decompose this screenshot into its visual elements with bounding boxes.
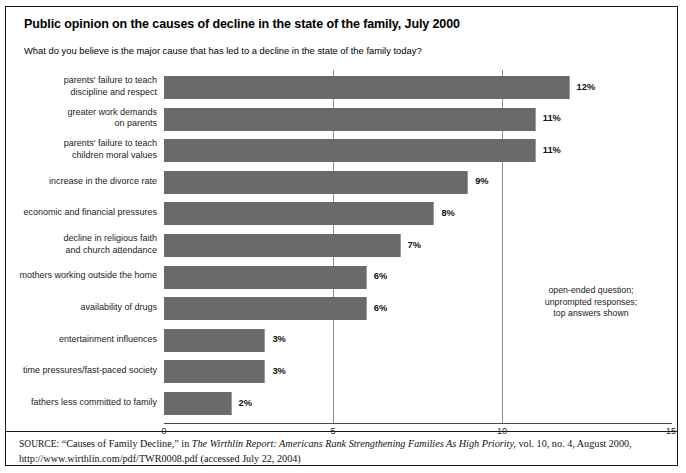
source-note: SOURCE: “Causes of Family Decline,” in T…: [19, 437, 669, 465]
category-label: increase in the divorce rate: [9, 176, 157, 188]
source-publication: The Wirthlin Report: Americans Rank Stre…: [192, 438, 516, 449]
bar[interactable]: [164, 171, 468, 194]
bar-value-label: 11%: [543, 145, 561, 155]
category-label: availability of drugs: [9, 302, 157, 314]
source-label: SOURCE:: [19, 439, 59, 449]
x-axis-tick-label: 10: [497, 426, 507, 436]
bar-value-label: 3%: [272, 366, 285, 376]
category-label: parents' failure to teach children moral…: [9, 138, 157, 161]
source-volume: vol. 10, no. 4, August 2000,: [518, 438, 631, 449]
page-title: Public opinion on the causes of decline …: [24, 17, 460, 31]
bar[interactable]: [164, 297, 367, 320]
bar-value-label: 11%: [543, 113, 561, 123]
bar-value-label: 6%: [374, 271, 387, 281]
category-label: decline in religious faith and church at…: [9, 233, 157, 256]
bar[interactable]: [164, 108, 536, 131]
source-divider: [6, 431, 677, 432]
bar-value-label: 9%: [475, 176, 488, 186]
chart-figure: Public opinion on the causes of decline …: [5, 6, 678, 466]
category-label: entertainment influences: [9, 334, 157, 346]
plot-area: 12%11%11%9%8%7%6%6%3%3%2%: [164, 70, 671, 423]
bar[interactable]: [164, 202, 434, 225]
source-url: http://www.wirthlin.com/pdf/TWR0008.pdf …: [19, 453, 301, 464]
bar-value-label: 3%: [272, 334, 285, 344]
bar[interactable]: [164, 392, 232, 415]
category-label: mothers working outside the home: [9, 270, 157, 282]
chart-question: What do you believe is the major cause t…: [24, 45, 422, 56]
bar[interactable]: [164, 234, 401, 257]
category-label: economic and financial pressures: [9, 207, 157, 219]
bar-value-label: 8%: [441, 208, 454, 218]
category-label: fathers less committed to family: [9, 397, 157, 409]
x-axis-line: [164, 423, 672, 424]
bar[interactable]: [164, 266, 367, 289]
source-quoted-title: “Causes of Family Decline,”: [62, 438, 179, 449]
bar-value-label: 7%: [408, 240, 421, 250]
category-label: time pressures/fast-paced society: [9, 365, 157, 377]
bar-value-label: 6%: [374, 303, 387, 313]
category-label: parents' failure to teach discipline and…: [9, 75, 157, 98]
chart-annotation: open-ended question; unprompted response…: [511, 285, 671, 320]
category-label: greater work demands on parents: [9, 107, 157, 130]
source-in: in: [181, 438, 189, 449]
x-axis-tick-label: 15: [666, 426, 676, 436]
x-axis-tick-label: 0: [161, 426, 166, 436]
bar[interactable]: [164, 139, 536, 162]
bar-value-label: 12%: [577, 82, 596, 92]
bar[interactable]: [164, 360, 265, 383]
x-axis-tick-label: 5: [330, 426, 335, 436]
bar[interactable]: [164, 76, 570, 99]
bar-value-label: 2%: [239, 398, 252, 408]
bar[interactable]: [164, 329, 265, 352]
